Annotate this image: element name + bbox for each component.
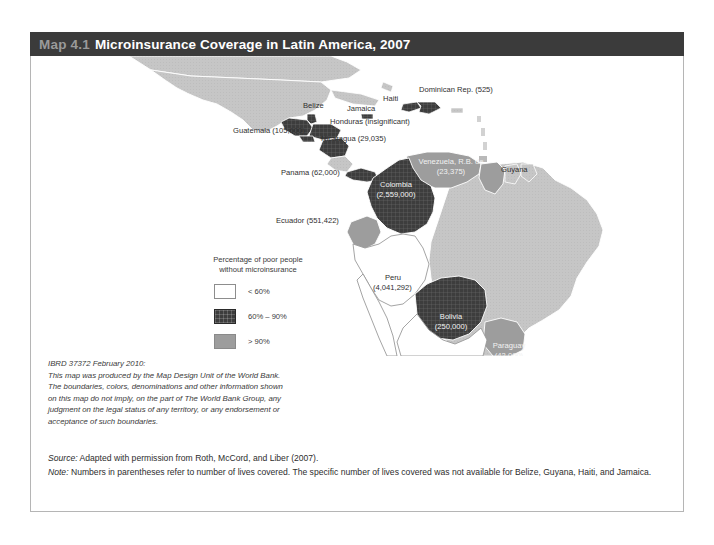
map-label-colombia: Colombia bbox=[380, 180, 413, 189]
map-figure-page: Map 4.1 Microinsurance Coverage in Latin… bbox=[0, 0, 714, 545]
source-label: Source: bbox=[48, 453, 78, 463]
ibrd-disclaimer: IBRD 37372 February 2010: This map was p… bbox=[48, 358, 348, 428]
map-label-jamaica: Jamaica bbox=[347, 104, 376, 113]
note-label: Note: bbox=[48, 467, 69, 477]
map-label-paraguay-value: (42,000) bbox=[495, 351, 524, 356]
map-label-bolivia: Bolivia bbox=[440, 312, 463, 321]
legend-label-high: > 90% bbox=[248, 337, 270, 346]
disclaimer-line-4: on this map do not imply, on the part of… bbox=[48, 393, 348, 405]
map-label-haiti: Haiti bbox=[383, 94, 399, 103]
note-text: Numbers in parentheses refer to number o… bbox=[69, 467, 652, 477]
region-dominican-republic bbox=[417, 102, 441, 114]
disclaimer-line-1: IBRD 37372 February 2010: bbox=[48, 358, 348, 370]
map-label-colombia-value: (2,559,000) bbox=[377, 190, 416, 199]
map-label-venezuela-value: (23,375) bbox=[437, 167, 466, 176]
region-el-salvador bbox=[299, 136, 315, 142]
legend-title-line2: without microinsurance bbox=[219, 265, 297, 274]
map-label-paraguay: Paraguay bbox=[493, 341, 526, 350]
note-line: Note: Numbers in parentheses refer to nu… bbox=[48, 466, 658, 480]
legend-label-mid: 60% – 90% bbox=[248, 312, 287, 321]
disclaimer-line-6: acceptance of such boundaries. bbox=[48, 416, 348, 428]
legend-item-low[interactable]: < 60% bbox=[200, 284, 360, 299]
map-label-dominican-republic: Dominican Rep. (525) bbox=[419, 85, 493, 94]
map-label-belize: Belize bbox=[303, 101, 324, 110]
legend-swatch-low bbox=[214, 284, 236, 299]
source-line: Source: Adapted with permission from Rot… bbox=[48, 452, 658, 466]
map-label-honduras: Honduras (insignificant) bbox=[330, 117, 410, 126]
figure-footer: Source: Adapted with permission from Rot… bbox=[48, 452, 658, 479]
region-lesser-antilles-a bbox=[477, 116, 481, 122]
region-puerto-rico bbox=[451, 108, 463, 113]
legend-swatch-high bbox=[214, 334, 236, 349]
disclaimer-line-3: The boundaries, colors, denominations an… bbox=[48, 381, 348, 393]
figure-title-bar: Map 4.1 Microinsurance Coverage in Latin… bbox=[30, 32, 684, 56]
map-label-ecuador: Ecuador (551,422) bbox=[276, 216, 339, 225]
legend-item-high[interactable]: > 90% bbox=[200, 334, 360, 349]
legend-title-line1: Percentage of poor people bbox=[213, 255, 303, 264]
legend-title: Percentage of poor people without microi… bbox=[200, 255, 316, 275]
map-label-nicaragua: Nicaragua (29,035) bbox=[321, 134, 386, 143]
legend-item-mid[interactable]: 60% – 90% bbox=[200, 309, 360, 324]
map-label-venezuela: Venezuela, R.B. de bbox=[418, 157, 483, 166]
region-lesser-antilles-c bbox=[483, 142, 487, 150]
map-label-peru-value: (4,041,292) bbox=[373, 283, 412, 292]
disclaimer-line-5: judgment on the legal status of any terr… bbox=[48, 404, 348, 416]
map-label-guyana: Guyana bbox=[501, 165, 528, 174]
region-lesser-antilles-b bbox=[481, 128, 485, 136]
disclaimer-line-2: This map was produced by the Map Design … bbox=[48, 370, 348, 382]
map-label-bolivia-value: (250,000) bbox=[435, 322, 468, 331]
map-label-peru: Peru bbox=[385, 273, 401, 282]
map-label-guatemala: Guatemala (105,600) bbox=[233, 126, 305, 135]
map-label-panama: Panama (62,000) bbox=[281, 168, 340, 177]
map-legend: Percentage of poor people without microi… bbox=[200, 255, 360, 359]
map-number: Map 4.1 bbox=[39, 37, 90, 52]
legend-label-low: < 60% bbox=[248, 287, 270, 296]
source-text: Adapted with permission from Roth, McCor… bbox=[78, 453, 319, 463]
region-haiti bbox=[401, 102, 421, 112]
page-title: Microinsurance Coverage in Latin America… bbox=[95, 37, 410, 52]
region-bahamas bbox=[381, 82, 393, 92]
legend-swatch-mid bbox=[214, 309, 236, 324]
